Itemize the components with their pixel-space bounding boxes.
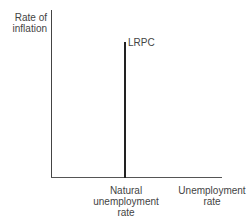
- x-axis-label: Unemployment rate: [172, 185, 252, 207]
- y-axis: [51, 10, 52, 178]
- lrpc-curve: [124, 42, 126, 178]
- natural-rate-label-line2: unemployment: [85, 196, 167, 207]
- natural-rate-label-line3: rate: [85, 207, 167, 218]
- x-axis-label-line2: rate: [172, 196, 252, 207]
- y-axis-label-line1: Rate of: [0, 12, 47, 23]
- x-axis-label-line1: Unemployment: [172, 185, 252, 196]
- natural-rate-label: Natural unemployment rate: [85, 185, 167, 218]
- y-axis-label: Rate of inflation: [0, 12, 47, 34]
- y-axis-label-line2: inflation: [0, 23, 47, 34]
- x-axis: [51, 177, 222, 178]
- natural-rate-label-line1: Natural: [85, 185, 167, 196]
- lrpc-label: LRPC: [128, 37, 155, 48]
